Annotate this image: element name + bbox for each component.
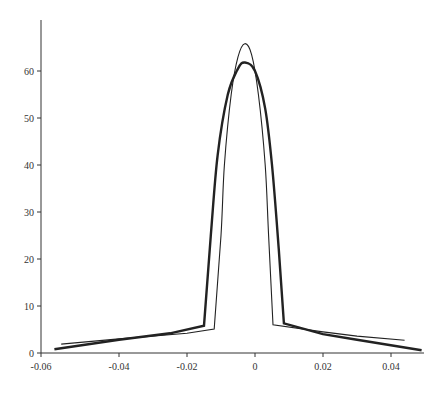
y-tick-label: 20 xyxy=(24,254,34,265)
x-tick-label: -0.02 xyxy=(177,361,198,372)
y-tick-label: 50 xyxy=(24,113,34,124)
y-tick-label: 40 xyxy=(24,160,34,171)
axes: 0102030405060-0.06-0.04-0.0200.020.04 xyxy=(24,20,424,372)
x-tick-label: -0.04 xyxy=(109,361,130,372)
x-tick-label: 0.02 xyxy=(314,361,332,372)
series-group xyxy=(54,44,421,351)
thick-curve xyxy=(54,62,421,350)
line-chart: 0102030405060-0.06-0.04-0.0200.020.04 xyxy=(0,0,444,396)
x-tick-label: -0.06 xyxy=(31,361,52,372)
y-tick-label: 10 xyxy=(24,301,34,312)
y-tick-label: 60 xyxy=(24,66,34,77)
y-tick-label: 30 xyxy=(24,207,34,218)
thin-curve xyxy=(61,44,404,344)
x-tick-label: 0.04 xyxy=(382,361,400,372)
y-tick-label: 0 xyxy=(29,348,34,359)
x-tick-label: 0 xyxy=(253,361,258,372)
